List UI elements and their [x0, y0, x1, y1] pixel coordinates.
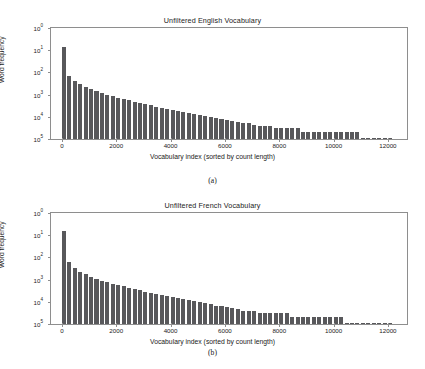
bar	[209, 304, 213, 324]
bar	[350, 323, 354, 324]
figure-container: Unfiltered English Vocabulary Word frequ…	[0, 0, 425, 369]
y-tick-label: 100	[34, 25, 43, 32]
x-tick-label: 4000	[164, 327, 178, 334]
bar	[219, 306, 223, 324]
bar	[317, 317, 321, 324]
bar	[192, 114, 196, 139]
bar	[105, 95, 109, 139]
bar	[181, 112, 185, 139]
subfigure-caption-b: (b)	[0, 348, 425, 357]
bar	[105, 282, 109, 324]
y-tick-label: 104	[34, 113, 43, 120]
bar	[100, 93, 104, 139]
bar	[274, 313, 278, 324]
subfigure-caption-a: (a)	[0, 176, 425, 185]
bar	[89, 89, 93, 139]
chart-panel-b: Unfiltered French Vocabulary Word freque…	[0, 185, 425, 369]
x-tick-mark	[116, 138, 117, 142]
bar	[149, 293, 153, 324]
bar	[285, 313, 289, 324]
y-tick-label: 102	[34, 254, 43, 261]
bar	[94, 91, 98, 139]
bar	[306, 132, 310, 139]
x-tick-mark	[334, 138, 335, 142]
bar	[339, 317, 343, 324]
x-tick-label: 2000	[109, 142, 123, 149]
bar	[165, 296, 169, 324]
bar	[122, 286, 126, 324]
x-tick-mark	[225, 138, 226, 142]
x-tick-label: 6000	[218, 142, 232, 149]
bar	[111, 96, 115, 139]
bar	[176, 111, 180, 139]
bar	[350, 132, 354, 139]
bar	[111, 284, 115, 324]
bar	[312, 317, 316, 324]
x-tick-label: 8000	[272, 327, 286, 334]
bar-series-b	[51, 213, 407, 324]
bar	[203, 116, 207, 139]
x-tick-mark	[388, 323, 389, 327]
bar	[290, 317, 294, 324]
x-tick-label: 6000	[218, 327, 232, 334]
y-tick-label: 105	[34, 321, 43, 328]
x-axis-label-a: Vocabulary index (sorted by count length…	[0, 153, 425, 160]
x-tick-label: 0	[60, 142, 63, 149]
bar	[345, 132, 349, 139]
x-tick-mark	[334, 323, 335, 327]
bar	[328, 132, 332, 139]
bar	[241, 311, 245, 324]
bar	[345, 323, 349, 324]
x-tick-label: 0	[60, 327, 63, 334]
bar	[160, 108, 164, 139]
bar	[154, 294, 158, 324]
chart-title-a: Unfiltered English Vocabulary	[0, 16, 425, 25]
bar	[383, 323, 387, 324]
bar	[361, 138, 365, 139]
y-axis-ticks-a: 105104103102101100	[0, 27, 48, 140]
bar	[241, 123, 245, 139]
bar	[236, 122, 240, 139]
y-tick-label: 104	[34, 298, 43, 305]
bar	[372, 323, 376, 324]
y-tick-label: 103	[34, 276, 43, 283]
bar	[214, 118, 218, 139]
x-tick-label: 10000	[325, 142, 342, 149]
bar	[258, 126, 262, 139]
bar	[323, 132, 327, 139]
bar	[252, 125, 256, 139]
bar	[361, 323, 365, 324]
x-tick-mark	[116, 323, 117, 327]
bar	[383, 138, 387, 139]
y-tick-label: 102	[34, 69, 43, 76]
x-tick-mark	[225, 323, 226, 327]
bar-series-a	[51, 28, 407, 139]
bar	[377, 138, 381, 139]
bar	[247, 311, 251, 324]
x-tick-mark	[62, 323, 63, 327]
chart-title-b: Unfiltered French Vocabulary	[0, 201, 425, 210]
bar	[230, 121, 234, 139]
bar	[192, 301, 196, 324]
bar	[127, 288, 131, 324]
bar	[116, 285, 120, 324]
bar	[84, 274, 88, 324]
bar	[198, 115, 202, 139]
bar	[78, 272, 82, 324]
bar	[301, 132, 305, 139]
bar	[355, 323, 359, 324]
bar	[160, 295, 164, 324]
bar	[225, 307, 229, 324]
bar	[372, 138, 376, 139]
bar	[138, 290, 142, 324]
bar	[225, 120, 229, 139]
bar	[171, 110, 175, 139]
chart-panel-a: Unfiltered English Vocabulary Word frequ…	[0, 0, 425, 184]
y-axis-ticks-b: 105104103102101100	[0, 212, 48, 325]
bar	[263, 126, 267, 139]
bar	[203, 303, 207, 324]
x-tick-label: 12000	[379, 142, 396, 149]
bar	[306, 317, 310, 324]
x-tick-label: 2000	[109, 327, 123, 334]
bar	[67, 76, 71, 139]
